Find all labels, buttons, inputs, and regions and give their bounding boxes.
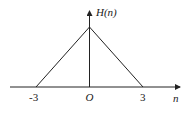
tick-label-3: 3 xyxy=(140,91,146,103)
tick-label-neg3: -3 xyxy=(29,91,39,103)
x-axis-label: n xyxy=(173,92,179,104)
diagram-canvas: H(n) -3 O 3 n xyxy=(0,0,184,123)
y-axis-label: H(n) xyxy=(95,6,117,19)
origin-label: O xyxy=(86,91,94,103)
